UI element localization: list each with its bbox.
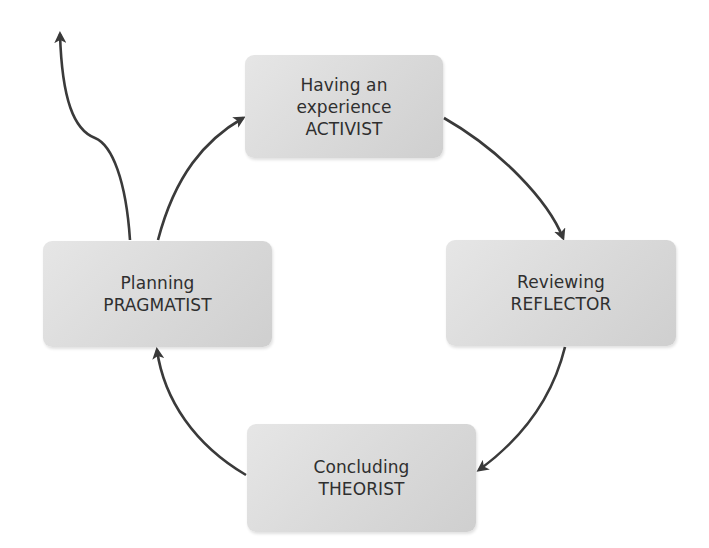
node-activist-line-2: experience [296, 96, 391, 118]
node-theorist-line-1: Concluding [314, 456, 410, 478]
node-pragmatist-line-2: PRAGMATIST [103, 294, 211, 316]
arrow-theorist-to-pragmatist [157, 350, 246, 475]
learning-cycle-diagram: Having an experience ACTIVIST Reviewing … [0, 0, 709, 548]
node-reflector-line-2: REFLECTOR [511, 293, 612, 315]
node-theorist-line-2: THEORIST [318, 478, 404, 500]
arrow-activist-to-reflector [444, 118, 563, 238]
node-theorist: Concluding THEORIST [247, 424, 476, 532]
node-pragmatist: Planning PRAGMATIST [43, 241, 272, 347]
node-activist-line-1: Having an [300, 74, 387, 96]
arrow-pragmatist-exit [60, 34, 130, 240]
node-pragmatist-line-1: Planning [120, 272, 194, 294]
node-reflector-line-1: Reviewing [517, 271, 605, 293]
arrow-reflector-to-theorist [479, 347, 565, 470]
arrow-pragmatist-to-activist [158, 118, 243, 240]
node-activist: Having an experience ACTIVIST [245, 55, 443, 158]
node-reflector: Reviewing REFLECTOR [446, 240, 676, 346]
node-activist-line-3: ACTIVIST [305, 118, 382, 140]
